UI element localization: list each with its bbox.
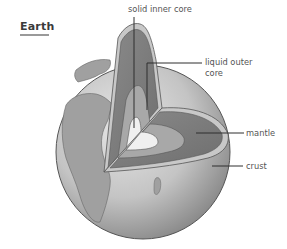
earth-cutaway-diagram (0, 0, 287, 249)
label-mantle: mantle (246, 128, 275, 138)
label-solid-inner-core: solid inner core (128, 4, 192, 14)
label-liquid-outer-core-line2: core (205, 68, 223, 78)
label-crust: crust (246, 161, 267, 171)
label-liquid-outer-core-line1: liquid outer (205, 57, 252, 67)
